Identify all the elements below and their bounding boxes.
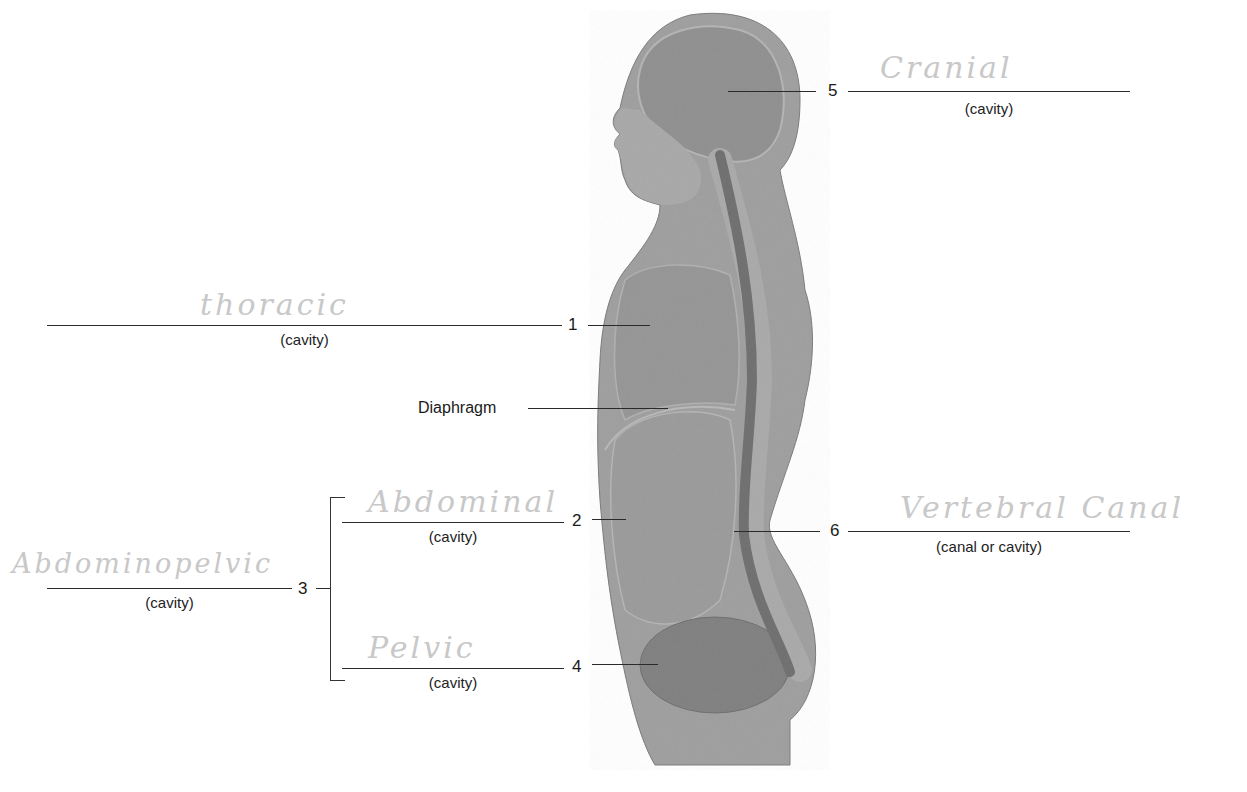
bracket-3 — [330, 497, 345, 681]
handwritten-answer-2: Abdominal — [368, 484, 558, 519]
answer-blank-2[interactable] — [342, 522, 564, 523]
handwritten-answer-4: Pelvic — [368, 630, 476, 665]
leader-line-2 — [592, 519, 626, 520]
leader-line-3 — [316, 588, 330, 589]
label-number-3: 3 — [298, 580, 307, 598]
label-number-6: 6 — [830, 522, 839, 540]
answer-blank-3[interactable] — [47, 588, 292, 589]
blank-sublabel-2: (cavity) — [342, 528, 564, 545]
blank-sublabel-5: (cavity) — [848, 100, 1130, 117]
leader-line-4 — [592, 664, 658, 665]
blank-sublabel-6: (canal or cavity) — [848, 538, 1130, 555]
blank-sublabel-4: (cavity) — [342, 674, 564, 691]
label-number-2: 2 — [572, 512, 581, 530]
leader-line-5 — [728, 91, 816, 92]
answer-blank-5[interactable] — [848, 91, 1130, 92]
body-cavities-diagram: 5 Cranial (cavity) thoracic (cavity) 1 D… — [0, 0, 1247, 792]
leader-line-1 — [588, 325, 650, 326]
answer-blank-6[interactable] — [848, 531, 1130, 532]
answer-blank-4[interactable] — [342, 668, 564, 669]
diaphragm-label: Diaphragm — [418, 399, 496, 417]
handwritten-answer-3: Abdominopelvic — [12, 548, 273, 579]
answer-blank-1[interactable] — [47, 325, 562, 326]
blank-sublabel-1: (cavity) — [47, 331, 562, 348]
label-number-1: 1 — [568, 316, 577, 334]
handwritten-answer-1: thoracic — [200, 287, 349, 322]
label-number-4: 4 — [572, 658, 581, 676]
torso-illustration — [0, 0, 1247, 792]
label-number-5: 5 — [828, 82, 837, 100]
leader-line-6 — [734, 531, 820, 532]
handwritten-answer-6: Vertebral Canal — [900, 490, 1184, 525]
blank-sublabel-3: (cavity) — [47, 594, 292, 611]
leader-line-diaphragm — [528, 408, 668, 409]
handwritten-answer-5: Cranial — [880, 50, 1013, 85]
